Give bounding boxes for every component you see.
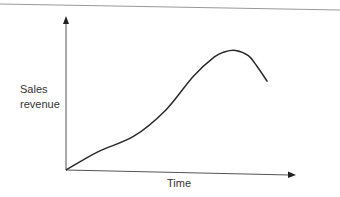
x-axis — [66, 170, 290, 175]
sales-revenue-curve — [66, 50, 267, 170]
y-axis-label: Sales revenue — [20, 82, 60, 112]
x-axis-arrow-icon — [288, 172, 296, 179]
x-axis-label: Time — [167, 176, 191, 191]
y-axis-label-line-2: revenue — [20, 97, 60, 112]
y-axis-label-line-1: Sales — [20, 82, 60, 97]
top-rule — [0, 4, 340, 10]
y-axis-arrow-icon — [63, 16, 69, 24]
